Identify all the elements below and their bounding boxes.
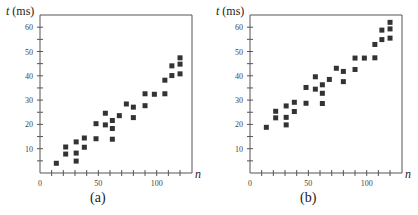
data-point-marker	[372, 42, 377, 47]
data-point-marker	[63, 152, 68, 157]
data-point-marker	[388, 36, 393, 41]
x-tick-label: 0	[248, 179, 252, 188]
data-point-marker	[353, 56, 358, 61]
data-point-marker	[169, 63, 174, 68]
y-tick-label: 40	[25, 72, 33, 81]
data-point-marker	[304, 85, 309, 90]
y-axis-title-b: t (ms)	[216, 4, 244, 19]
data-point-marker	[379, 28, 384, 33]
y-axis-title-a: t (ms)	[6, 4, 34, 19]
data-point-marker	[63, 144, 68, 149]
x-axis-title-a: n	[195, 167, 201, 182]
data-point-marker	[334, 66, 339, 71]
x-tick-label: 100	[151, 179, 163, 188]
data-point-marker	[264, 125, 269, 130]
y-tick-label: 20	[25, 120, 33, 129]
scatter-plot-b: 050100102030405060	[210, 0, 418, 215]
data-point-marker	[74, 139, 79, 144]
data-point-marker	[292, 100, 297, 105]
data-point-marker	[103, 111, 108, 116]
data-point-marker	[284, 115, 289, 120]
y-tick-label: 60	[25, 23, 33, 32]
data-point-marker	[110, 137, 115, 142]
y-tick-label: 20	[235, 120, 243, 129]
data-point-marker	[110, 118, 115, 123]
data-point-marker	[178, 62, 183, 67]
data-point-marker	[313, 87, 318, 92]
data-point-marker	[131, 115, 136, 120]
data-point-marker	[388, 20, 393, 25]
data-point-marker	[143, 103, 148, 108]
x-axis-var-b: n	[405, 167, 411, 181]
data-point-marker	[74, 151, 79, 156]
caption-a: (a)	[90, 190, 106, 206]
data-point-marker	[54, 161, 59, 166]
caption-b: (b)	[300, 190, 316, 206]
y-axis-var-a: t	[6, 4, 9, 18]
data-point-marker	[372, 55, 377, 60]
data-point-marker	[320, 101, 325, 106]
data-point-marker	[152, 92, 157, 97]
chart-panel-a: 050100102030405060 t (ms) n (a)	[0, 0, 209, 215]
x-tick-label: 50	[94, 179, 102, 188]
data-point-marker	[284, 103, 289, 108]
x-axis-var-a: n	[195, 167, 201, 181]
data-point-marker	[320, 82, 325, 87]
y-tick-label: 10	[25, 145, 33, 154]
y-tick-label: 50	[235, 48, 243, 57]
data-point-marker	[313, 74, 318, 79]
data-point-marker	[304, 101, 309, 106]
data-point-marker	[327, 77, 332, 82]
data-point-marker	[82, 145, 87, 150]
y-tick-label: 30	[25, 96, 33, 105]
data-point-marker	[74, 159, 79, 164]
x-tick-label: 0	[38, 179, 42, 188]
data-point-marker	[178, 71, 183, 76]
data-point-marker	[284, 122, 289, 127]
x-axis-title-b: n	[405, 167, 411, 182]
data-point-marker	[388, 26, 393, 31]
scatter-plot-a: 050100102030405060	[0, 0, 209, 215]
data-point-marker	[103, 122, 108, 127]
data-point-marker	[94, 121, 99, 126]
y-tick-label: 40	[235, 72, 243, 81]
data-point-marker	[162, 78, 167, 83]
data-point-marker	[273, 115, 278, 120]
y-axis-unit-b: (ms)	[222, 4, 244, 18]
y-axis-unit-a: (ms)	[12, 4, 34, 18]
data-point-marker	[131, 105, 136, 110]
data-point-marker	[320, 91, 325, 96]
data-point-marker	[117, 113, 122, 118]
data-point-marker	[82, 136, 87, 141]
data-point-marker	[162, 91, 167, 96]
y-tick-label: 50	[25, 48, 33, 57]
chart-panel-b: 050100102030405060 t (ms) n (b)	[210, 0, 418, 215]
x-tick-label: 100	[361, 179, 373, 188]
data-point-marker	[110, 126, 115, 131]
y-tick-label: 30	[235, 96, 243, 105]
y-tick-label: 10	[235, 145, 243, 154]
y-axis-var-b: t	[216, 4, 219, 18]
data-point-marker	[341, 69, 346, 74]
data-point-marker	[143, 91, 148, 96]
data-point-marker	[124, 101, 129, 106]
data-point-marker	[292, 109, 297, 114]
data-point-marker	[273, 109, 278, 114]
x-tick-label: 50	[304, 179, 312, 188]
data-point-marker	[169, 73, 174, 78]
data-point-marker	[362, 56, 367, 61]
y-tick-label: 60	[235, 23, 243, 32]
data-point-marker	[341, 79, 346, 84]
data-point-marker	[353, 67, 358, 72]
data-point-marker	[178, 55, 183, 60]
data-point-marker	[94, 136, 99, 141]
data-point-marker	[379, 37, 384, 42]
